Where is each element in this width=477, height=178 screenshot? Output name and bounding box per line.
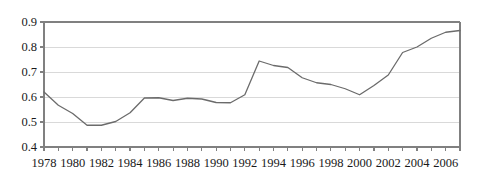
plot-border [44,22,460,147]
y-tick-label: 0.8 [21,41,37,54]
y-tick-label: 0.6 [21,91,37,104]
y-tick-label: 0.5 [21,116,37,129]
y-tick-label: 0.9 [21,16,37,29]
series-line [44,31,460,126]
data-line [44,31,460,126]
x-tick-label: 2006 [429,157,463,170]
y-tick-label: 0.7 [21,66,37,79]
y-tick-label: 0.4 [21,141,37,154]
gridlines [44,22,460,122]
chart-canvas [0,0,477,178]
line-chart: 0.40.50.60.70.80.9 197819801982198419861… [0,0,477,178]
